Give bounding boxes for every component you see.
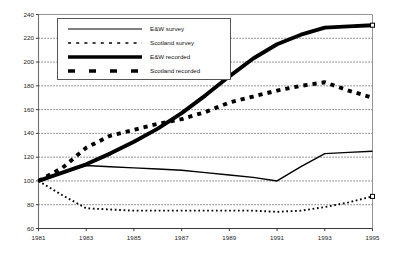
legend-entry: E&W survey bbox=[58, 22, 230, 36]
legend-label-scotland-recorded: Scotland recorded bbox=[150, 64, 200, 78]
y-tick-label: 80 bbox=[6, 201, 34, 208]
legend-entry: E&W recorded bbox=[58, 50, 230, 64]
x-tick-label: 1981 bbox=[19, 234, 59, 241]
series-end-marker bbox=[371, 194, 375, 198]
legend-entry: Scotland survey bbox=[58, 36, 230, 50]
series-end-marker bbox=[371, 23, 375, 27]
y-tick-label: 100 bbox=[6, 177, 34, 184]
x-tick-label: 1983 bbox=[66, 234, 106, 241]
x-tick-label: 1987 bbox=[162, 234, 202, 241]
series-line bbox=[39, 181, 373, 212]
y-tick-label: 240 bbox=[6, 11, 34, 18]
legend-label-scotland-survey: Scotland survey bbox=[150, 36, 194, 50]
series-line bbox=[39, 151, 373, 181]
y-tick-label: 180 bbox=[6, 82, 34, 89]
legend-label-ew-survey: E&W survey bbox=[150, 22, 184, 36]
y-tick-label: 200 bbox=[6, 58, 34, 65]
legend-entry: Scotland recorded bbox=[58, 64, 230, 78]
x-tick-label: 1989 bbox=[209, 234, 249, 241]
y-tick-label: 140 bbox=[6, 129, 34, 136]
legend-swatch-ew-recorded bbox=[66, 50, 144, 64]
x-tick-label: 1991 bbox=[257, 234, 297, 241]
y-tick-label: 160 bbox=[6, 106, 34, 113]
y-tick-label: 220 bbox=[6, 34, 34, 41]
y-tick-label: 60 bbox=[6, 225, 34, 232]
chart-legend: E&W survey Scotland survey E&W recorded … bbox=[57, 18, 231, 80]
x-tick-label: 1995 bbox=[353, 234, 393, 241]
legend-swatch-scotland-recorded bbox=[66, 64, 144, 78]
legend-label-ew-recorded: E&W recorded bbox=[150, 50, 190, 64]
chart-figure: 6080100120140160180200220240 19811983198… bbox=[0, 0, 397, 256]
x-tick-label: 1993 bbox=[305, 234, 345, 241]
y-tick-label: 120 bbox=[6, 153, 34, 160]
x-tick-label: 1985 bbox=[114, 234, 154, 241]
legend-swatch-scotland-survey bbox=[66, 36, 144, 50]
legend-swatch-ew-survey bbox=[66, 22, 144, 36]
